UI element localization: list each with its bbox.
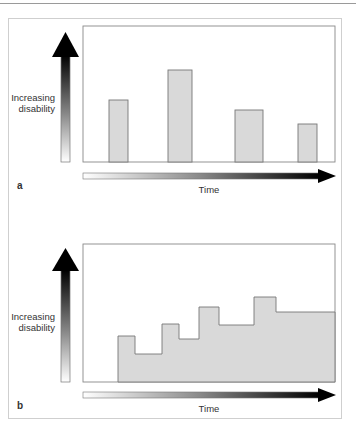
y-axis-label-line1: Increasing: [11, 311, 55, 322]
bar-relapse-3: [235, 110, 263, 162]
x-axis-label: Time: [199, 184, 220, 195]
bar-relapse-2: [168, 70, 192, 162]
x-axis-label: Time: [199, 403, 220, 414]
panel-a: Increasing disability Time a: [11, 26, 336, 195]
figure-canvas: Increasing disability Time a Increasing …: [0, 0, 356, 428]
panel-label: b: [17, 400, 23, 411]
panel-b: Increasing disability Time b: [11, 244, 336, 414]
disability-up-arrow-icon: [52, 248, 79, 382]
y-axis-label-line2: disability: [19, 103, 56, 114]
bar-relapse-1: [109, 100, 128, 162]
y-axis-label-line1: Increasing: [11, 92, 55, 103]
time-arrow-icon: [83, 169, 336, 183]
disability-up-arrow-icon: [52, 32, 79, 162]
y-axis-label-line2: disability: [19, 322, 56, 333]
time-arrow-icon: [83, 388, 336, 402]
bar-relapse-4: [298, 124, 317, 162]
panel-label: a: [17, 180, 23, 191]
